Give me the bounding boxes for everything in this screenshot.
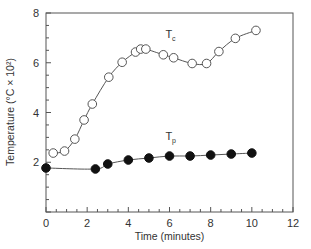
filled-circle-marker bbox=[165, 152, 174, 161]
open-circle-marker bbox=[118, 58, 127, 67]
open-circle-marker bbox=[142, 45, 151, 54]
y-tick-label: 2 bbox=[33, 156, 39, 168]
filled-circle-marker bbox=[145, 154, 154, 163]
series-tc: Tc bbox=[49, 26, 260, 157]
open-circle-marker bbox=[188, 59, 197, 68]
y-tick-label: 8 bbox=[33, 7, 39, 19]
open-circle-marker bbox=[80, 116, 89, 125]
x-tick-label: 2 bbox=[84, 217, 90, 229]
series-label-tp: Tp bbox=[165, 130, 176, 145]
filled-circle-marker bbox=[103, 160, 112, 169]
series-line bbox=[53, 30, 256, 153]
plot-frame bbox=[46, 13, 293, 212]
filled-circle-marker bbox=[186, 152, 195, 161]
filled-circle-marker bbox=[42, 164, 51, 173]
open-circle-marker bbox=[104, 73, 113, 82]
y-tick-label: 6 bbox=[33, 57, 39, 69]
x-tick-label: 4 bbox=[125, 217, 131, 229]
x-tick-label: 6 bbox=[166, 217, 172, 229]
series-label-tc: Tc bbox=[165, 28, 176, 42]
x-tick-label: 10 bbox=[246, 217, 258, 229]
open-circle-marker bbox=[60, 147, 69, 156]
open-circle-marker bbox=[71, 135, 80, 144]
x-axis-title: Time (minutes) bbox=[135, 230, 205, 242]
filled-circle-marker bbox=[91, 165, 100, 174]
filled-circle-marker bbox=[206, 151, 215, 160]
x-tick-label: 8 bbox=[208, 217, 214, 229]
chart-canvas: 0246810122468 TcTp Time (minutes) Temper… bbox=[0, 0, 311, 249]
open-circle-marker bbox=[202, 59, 211, 68]
y-tick-label: 4 bbox=[33, 107, 39, 119]
y-axis-title: Temperature (°C × 10²) bbox=[4, 58, 16, 166]
open-circle-marker bbox=[49, 149, 58, 158]
open-circle-marker bbox=[215, 47, 224, 56]
temperature-chart: 0246810122468 TcTp Time (minutes) Temper… bbox=[0, 0, 311, 249]
filled-circle-marker bbox=[248, 149, 257, 158]
x-tick-label: 0 bbox=[43, 217, 49, 229]
filled-circle-marker bbox=[124, 156, 133, 165]
open-circle-marker bbox=[169, 53, 178, 62]
series-group: TcTp bbox=[42, 26, 261, 173]
open-circle-marker bbox=[159, 50, 168, 59]
x-tick-label: 12 bbox=[287, 217, 299, 229]
open-circle-marker bbox=[88, 100, 97, 109]
filled-circle-marker bbox=[227, 150, 236, 159]
open-circle-marker bbox=[252, 26, 261, 35]
axes: 0246810122468 bbox=[33, 7, 299, 229]
open-circle-marker bbox=[231, 34, 240, 43]
